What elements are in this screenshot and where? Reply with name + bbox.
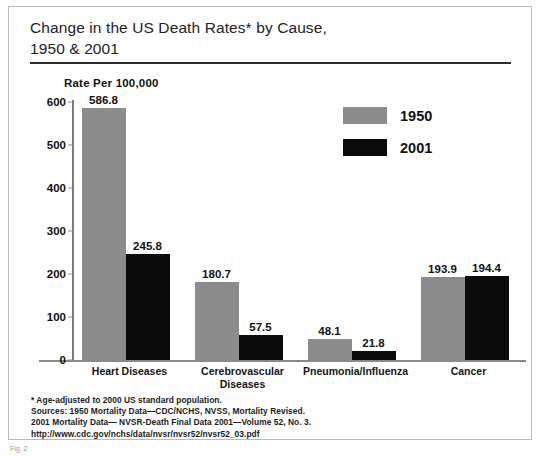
chart-title: Change in the US Death Rates* by Cause, … — [30, 17, 500, 59]
bar-value-label: 21.8 — [362, 337, 384, 349]
footnote-url[interactable]: http://www.cdc.gov/nchs/data/nvsr/nvsr52… — [31, 429, 511, 440]
bar-value-label: 194.4 — [472, 262, 501, 274]
title-divider — [30, 62, 511, 64]
bar-value-label: 180.7 — [202, 268, 231, 280]
bar-1950-heart-diseases[interactable]: 586.8 — [82, 108, 126, 360]
bar-2001-cancer[interactable]: 194.4 — [465, 276, 509, 360]
y-axis-title: Rate Per 100,000 — [64, 77, 159, 89]
y-axis-tick-mark — [68, 102, 73, 103]
legend-label-1950: 1950 — [400, 108, 432, 124]
legend-item-2001: 2001 — [343, 139, 432, 156]
bar-2001-cerebrovascular-diseases[interactable]: 57.5 — [239, 335, 283, 360]
chart-footnotes: * Age-adjusted to 2000 US standard popul… — [31, 395, 511, 440]
y-axis-tick-label: 400 — [47, 182, 66, 194]
chart-title-line-1: Change in the US Death Rates* by Cause, — [30, 17, 500, 38]
legend-swatch-1950 — [343, 107, 387, 124]
bar-2001-heart-diseases[interactable]: 245.8 — [126, 254, 170, 360]
footnote-source-2001: 2001 Mortality Data— NVSR-Death Final Da… — [31, 417, 511, 428]
bar-1950-cerebrovascular-diseases[interactable]: 180.7 — [195, 282, 239, 360]
bar-1950-cancer[interactable]: 193.9 — [421, 277, 465, 360]
bar-value-label: 245.8 — [133, 240, 162, 252]
y-axis-tick-mark — [68, 317, 73, 318]
bar-value-label: 48.1 — [318, 325, 340, 337]
legend-item-1950: 1950 — [343, 107, 432, 124]
y-axis-tick-label: 100 — [47, 311, 66, 323]
y-axis-tick-mark — [68, 145, 73, 146]
y-axis-tick-label: 200 — [47, 268, 66, 280]
x-axis-line — [39, 360, 526, 362]
plot-area: 0100200300400500600586.8245.8180.757.548… — [73, 102, 525, 360]
footnote-asterisk: * Age-adjusted to 2000 US standard popul… — [31, 395, 511, 406]
bar-value-label: 193.9 — [428, 263, 457, 275]
footnote-source-1950: Sources: 1950 Mortality Data—CDC/NCHS, N… — [31, 406, 511, 417]
bar-2001-pneumonia-influenza[interactable]: 21.8 — [352, 351, 396, 360]
category-label-line: Diseases — [176, 378, 309, 391]
legend-label-2001: 2001 — [400, 140, 432, 156]
bar-value-label: 586.8 — [89, 94, 118, 106]
y-axis-tick-mark — [68, 360, 73, 361]
bar-value-label: 57.5 — [249, 321, 271, 333]
legend-swatch-2001 — [343, 139, 387, 156]
y-axis-tick-mark — [68, 274, 73, 275]
chart-figure: Change in the US Death Rates* by Cause, … — [8, 6, 532, 440]
chart-title-line-2: 1950 & 2001 — [30, 38, 500, 59]
x-axis-category-label: Cancer — [402, 365, 535, 378]
figure-caption: Fig. 2 — [10, 445, 28, 452]
y-axis-tick-label: 500 — [47, 139, 66, 151]
y-axis-tick-label: 600 — [47, 96, 66, 108]
y-axis-tick-mark — [68, 231, 73, 232]
bar-1950-pneumonia-influenza[interactable]: 48.1 — [308, 339, 352, 360]
chart-legend: 1950 2001 — [343, 107, 432, 171]
y-axis-tick-mark — [68, 188, 73, 189]
y-axis-tick-label: 300 — [47, 225, 66, 237]
category-label-line: Cancer — [402, 365, 535, 378]
